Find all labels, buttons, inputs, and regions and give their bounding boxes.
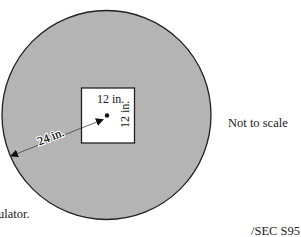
reference-code: /SEC S95: [251, 224, 300, 237]
square-height-label: 12 in.: [118, 101, 132, 128]
partial-caption-text: ulator.: [0, 207, 30, 222]
scale-note: Not to scale: [228, 116, 288, 131]
center-point: [105, 113, 109, 117]
